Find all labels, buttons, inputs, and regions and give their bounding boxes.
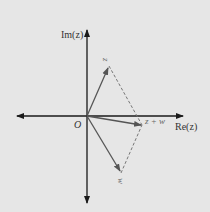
- vector-w: [87, 116, 120, 171]
- parallelogram-dashes: [109, 66, 142, 173]
- vector-z-plus-w-label: z + w: [144, 116, 165, 126]
- vector-w-label: w: [116, 178, 126, 184]
- vectors: [87, 68, 141, 171]
- complex-plane-diagram: Im(z) Re(z) O z w z + w: [0, 0, 210, 212]
- y-axis-label: Im(z): [61, 29, 83, 41]
- dashed-w-to-sum: [121, 125, 142, 173]
- x-axis-label: Re(z): [175, 121, 197, 133]
- vector-z-label: z: [101, 57, 111, 62]
- vector-z-plus-w: [87, 116, 141, 125]
- vector-z: [87, 68, 108, 116]
- origin-label: O: [74, 119, 81, 130]
